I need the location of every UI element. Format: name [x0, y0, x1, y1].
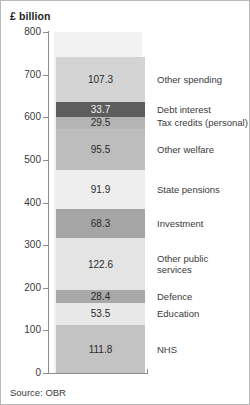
y-axis-tick-labels: 8007006005004003002001000 — [1, 1, 41, 405]
y-axis-tick-label: 200 — [24, 283, 41, 293]
y-axis-tick-label: 500 — [24, 155, 41, 165]
bar-segment-value: 33.7 — [91, 104, 110, 115]
y-axis-tick-label: 700 — [24, 70, 41, 80]
y-axis-tick — [43, 245, 48, 246]
bar-segment: 53.5 — [56, 303, 145, 326]
bar-segment: 91.9 — [56, 170, 145, 209]
bar-segment-value: 28.4 — [91, 291, 110, 302]
series-label: NHS — [157, 344, 177, 355]
bar-segment-value: 29.5 — [91, 117, 110, 128]
y-axis-tick-label: 300 — [24, 240, 41, 250]
series-label: Investment — [157, 218, 203, 229]
bar-segment: 68.3 — [56, 209, 145, 238]
series-label: Defence — [157, 291, 192, 302]
bar-segment-value: 111.8 — [89, 344, 113, 355]
bar-segment: 33.7 — [56, 102, 145, 116]
bar-segment: 95.5 — [56, 129, 145, 170]
bar-segment-value: 107.3 — [88, 74, 113, 85]
y-axis-tick — [43, 203, 48, 204]
chart-frame: £ billion 8007006005004003002001000 107.… — [0, 0, 250, 405]
y-axis-tick-label: 0 — [35, 368, 41, 378]
series-label: Education — [157, 308, 199, 319]
y-axis-tick-label: 800 — [24, 27, 41, 37]
series-label: Debt interest — [157, 104, 211, 115]
y-axis-tick-label: 100 — [24, 325, 41, 335]
y-axis-tick — [43, 373, 48, 374]
source-note: Source: OBR — [10, 387, 66, 398]
bar-segment-value: 53.5 — [91, 308, 110, 319]
bar-segment: 28.4 — [56, 290, 145, 302]
bar-segment: 122.6 — [56, 238, 145, 290]
x-axis-line — [48, 373, 148, 374]
y-axis-tick — [43, 75, 48, 76]
stacked-bar: 107.333.729.595.591.968.3122.628.453.511… — [56, 32, 145, 373]
series-label: Other welfare — [157, 144, 214, 155]
series-label: Other public services — [157, 253, 208, 275]
series-label: State pensions — [157, 184, 220, 195]
y-axis-tick — [43, 288, 48, 289]
y-axis-line — [48, 31, 49, 374]
series-label: Tax credits (personal) — [157, 117, 248, 128]
y-axis-tick — [43, 160, 48, 161]
bar-segment: 111.8 — [56, 325, 145, 373]
series-label: Other spending — [157, 74, 222, 85]
x-axis-end-cap — [147, 369, 148, 374]
y-axis-tick-label: 400 — [24, 198, 41, 208]
bar-segment: 29.5 — [56, 117, 145, 130]
bar-segment-value: 122.6 — [88, 259, 113, 270]
y-axis-tick — [43, 117, 48, 118]
bar-segment-value: 95.5 — [91, 144, 110, 155]
y-axis-tick-label: 600 — [24, 112, 41, 122]
bar-segment: 107.3 — [56, 57, 145, 103]
bar-segment-value: 91.9 — [91, 184, 110, 195]
bar-segment-value: 68.3 — [91, 218, 110, 229]
y-axis-tick — [43, 330, 48, 331]
y-axis-tick — [43, 32, 48, 33]
